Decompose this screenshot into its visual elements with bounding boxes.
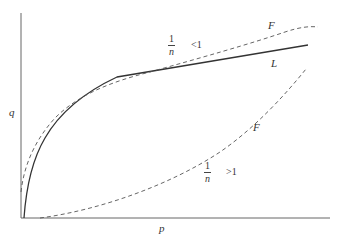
curve-F-convex-label: F — [253, 122, 260, 133]
fraction-denominator: n — [204, 173, 211, 184]
curve-L-label: L — [271, 58, 277, 69]
curve-L — [24, 45, 308, 218]
condition-convex-fraction: 1 n — [204, 161, 211, 184]
fraction-numerator: 1 — [168, 34, 175, 46]
curve-F-convex — [40, 69, 306, 218]
fraction-denominator: n — [168, 46, 175, 57]
x-axis-label: p — [159, 223, 165, 234]
condition-convex-relation: >1 — [226, 167, 237, 177]
fraction-numerator: 1 — [204, 161, 211, 173]
y-axis-label: q — [9, 107, 15, 118]
curve-F-concave-label: F — [268, 20, 275, 31]
condition-concave-fraction: 1 n — [168, 34, 175, 57]
condition-concave-relation: <1 — [191, 40, 202, 50]
